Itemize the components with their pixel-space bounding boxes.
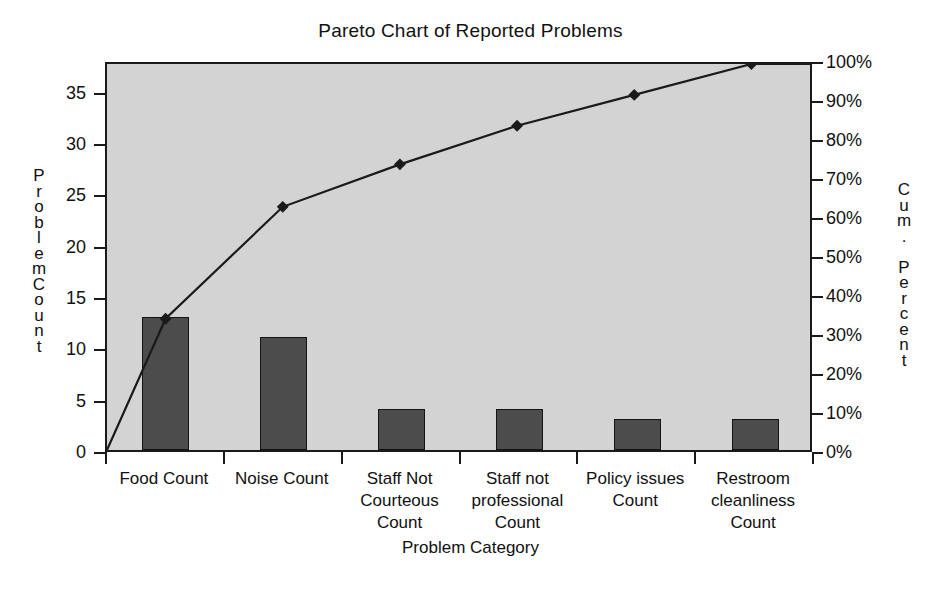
data-point-marker: [394, 158, 406, 170]
y-axis-right-tick-mark: [812, 218, 823, 220]
plot-area: [105, 62, 812, 452]
y-axis-left-tick-label: 0: [40, 443, 86, 461]
y-axis-right-tick-label: 30%: [826, 326, 888, 344]
y-axis-right-tick-label: 80%: [826, 131, 888, 149]
x-axis-category-label: Food Count: [105, 468, 223, 490]
x-axis-tick-mark: [459, 452, 461, 464]
y-axis-right-tick-mark: [812, 257, 823, 259]
x-axis-tick-mark: [105, 452, 107, 464]
category-label-line: Count: [459, 512, 577, 534]
y-axis-left-tick-mark: [94, 144, 105, 146]
axis-title-letter: t: [893, 353, 915, 369]
category-label-line: professional: [459, 490, 577, 512]
y-axis-left-tick-mark: [94, 93, 105, 95]
y-axis-right-tick-mark: [812, 374, 823, 376]
y-axis-right-tick-mark: [812, 296, 823, 298]
category-label-line: Restroom: [694, 468, 812, 490]
y-axis-left-tick-mark: [94, 349, 105, 351]
category-label-line: Count: [341, 512, 459, 534]
y-axis-left-tick-label: 30: [40, 135, 86, 153]
y-axis-right-tick-mark: [812, 62, 823, 64]
data-point-marker: [745, 64, 757, 70]
y-axis-right-tick-mark: [812, 413, 823, 415]
y-axis-right-tick-label: 90%: [826, 92, 888, 110]
x-axis-category-label: RestroomcleanlinessCount: [694, 468, 812, 534]
cumulative-line: [107, 64, 810, 450]
y-axis-left-tick-label: 35: [40, 84, 86, 102]
axis-title-letter: t: [28, 339, 50, 355]
y-axis-left-tick-mark: [94, 247, 105, 249]
category-label-line: Staff Not: [341, 468, 459, 490]
x-axis-category-label: Staff NotCourteousCount: [341, 468, 459, 534]
pareto-chart: Pareto Chart of Reported Problems 051015…: [0, 0, 941, 592]
x-axis-category-label: Noise Count: [223, 468, 341, 490]
y-axis-left-tick-label: 5: [40, 392, 86, 410]
y-axis-left-tick-mark: [94, 401, 105, 403]
y-axis-right-tick-label: 70%: [826, 170, 888, 188]
y-axis-right-tick-mark: [812, 101, 823, 103]
y-axis-left-tick-mark: [94, 452, 105, 454]
x-axis-title: Problem Category: [0, 538, 941, 558]
x-axis-category-label: Policy issuesCount: [576, 468, 694, 512]
cumulative-line-layer: [107, 64, 810, 450]
y-axis-right-tick-mark: [812, 140, 823, 142]
category-label-line: Noise Count: [223, 468, 341, 490]
y-axis-left-tick-mark: [94, 195, 105, 197]
x-axis-tick-mark: [341, 452, 343, 464]
category-label-line: Staff not: [459, 468, 577, 490]
x-axis-tick-mark: [694, 452, 696, 464]
category-label-line: Policy issues: [576, 468, 694, 490]
y-axis-right-tick-label: 10%: [826, 404, 888, 422]
x-axis-tick-mark: [812, 452, 814, 464]
y-axis-left-tick-mark: [94, 298, 105, 300]
category-label-line: Courteous: [341, 490, 459, 512]
y-axis-left-title: ProblemCount: [28, 168, 50, 354]
y-axis-right-tick-label: 100%: [826, 53, 888, 71]
y-axis-right-tick-label: 40%: [826, 287, 888, 305]
y-axis-right-title: Cum. Percent: [893, 182, 915, 368]
y-axis-right-tick-mark: [812, 335, 823, 337]
x-axis-tick-mark: [576, 452, 578, 464]
y-axis-right-tick-label: 0%: [826, 443, 888, 461]
chart-title: Pareto Chart of Reported Problems: [0, 20, 941, 42]
x-axis-category-label: Staff notprofessionalCount: [459, 468, 577, 534]
category-label-line: Food Count: [105, 468, 223, 490]
y-axis-right-tick-mark: [812, 179, 823, 181]
data-point-marker: [511, 120, 523, 132]
y-axis-right-tick-label: 20%: [826, 365, 888, 383]
category-label-line: Count: [576, 490, 694, 512]
x-axis-tick-mark: [223, 452, 225, 464]
y-axis-right-tick-label: 50%: [826, 248, 888, 266]
data-point-marker: [628, 89, 640, 101]
y-axis-right-tick-label: 60%: [826, 209, 888, 227]
category-label-line: cleanliness: [694, 490, 812, 512]
category-label-line: Count: [694, 512, 812, 534]
